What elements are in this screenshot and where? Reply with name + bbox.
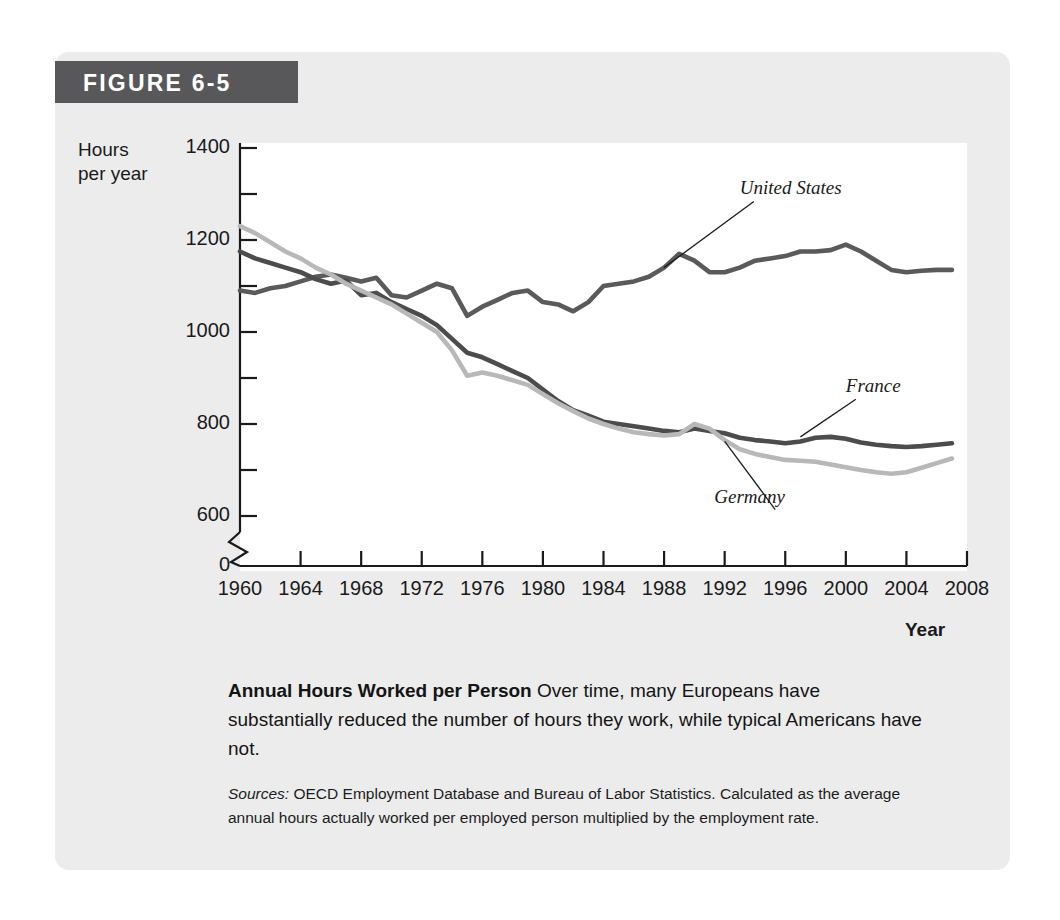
chart-area: Hours per year Year 1400120010008006000 … bbox=[0, 0, 1060, 660]
data-lines-group bbox=[240, 226, 952, 474]
leader-line bbox=[664, 201, 754, 267]
axes-group bbox=[229, 143, 967, 566]
figure-caption: Annual Hours Worked per Person Over time… bbox=[228, 676, 928, 763]
sources-body: OECD Employment Database and Bureau of L… bbox=[228, 785, 900, 826]
plot-svg bbox=[0, 0, 1060, 660]
figure-sources: Sources: OECD Employment Database and Bu… bbox=[228, 782, 938, 830]
caption-title: Annual Hours Worked per Person bbox=[228, 680, 532, 701]
series-line-france bbox=[240, 252, 952, 448]
leader-line bbox=[800, 399, 855, 437]
sources-title: Sources: bbox=[228, 785, 289, 802]
